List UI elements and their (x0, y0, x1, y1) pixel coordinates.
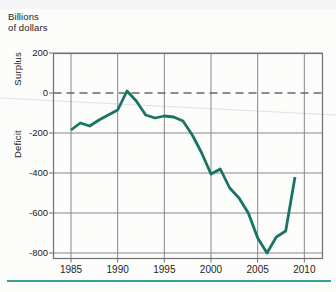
axis-ticks (49, 53, 304, 263)
x-tick-labels: 198519901995200020052010 (60, 264, 316, 275)
data-series-line (71, 91, 295, 253)
plot-border (54, 54, 323, 259)
x-gridlines (71, 54, 304, 259)
y-tick-label: 200 (32, 47, 48, 58)
y-tick-label: -800 (29, 247, 48, 258)
bottom-divider-rule (7, 280, 331, 282)
y-tick-label: -600 (29, 207, 48, 218)
chart-canvas: 198519901995200020052010 2000-200-400-60… (0, 0, 336, 292)
x-tick-label: 1990 (107, 264, 130, 275)
scan-artifact-line (0, 98, 336, 115)
x-tick-label: 2000 (200, 264, 223, 275)
x-tick-label: 1995 (153, 264, 176, 275)
x-tick-label: 1985 (60, 264, 83, 275)
y-gridlines (54, 53, 323, 253)
x-tick-label: 2005 (247, 264, 270, 275)
x-tick-label: 2010 (293, 264, 316, 275)
y-tick-label: 0 (43, 87, 48, 98)
figure: Billions of dollars Deficit Surplus 1985… (0, 0, 336, 292)
y-tick-labels: 2000-200-400-600-800 (29, 47, 48, 258)
y-tick-label: -400 (29, 167, 48, 178)
y-tick-label: -200 (29, 127, 48, 138)
